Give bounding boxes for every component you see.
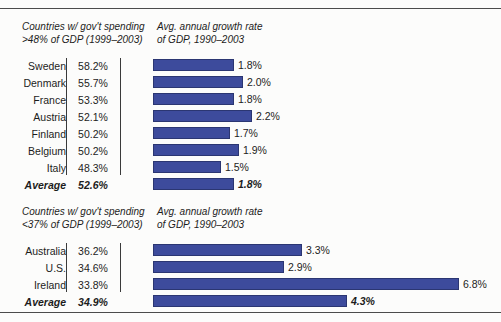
table-divider-right — [120, 243, 121, 292]
country-label: Sweden — [0, 60, 66, 72]
table-row: Denmark55.7% — [0, 74, 150, 91]
country-label: U.S. — [0, 262, 66, 274]
top-divider-rule — [0, 8, 501, 9]
spending-value: 52.1% — [66, 111, 120, 123]
bottom-divider-rule — [0, 312, 501, 313]
table-row: Belgium50.2% — [0, 142, 150, 159]
growth-value-label: 1.7% — [234, 127, 258, 139]
country-label: Average — [0, 179, 66, 191]
growth-value-label: 1.8% — [238, 178, 262, 190]
spending-value: 34.9% — [66, 296, 120, 308]
table-divider-left — [66, 58, 67, 175]
table-row: Finland50.2% — [0, 125, 150, 142]
group-2-label-table: Australia36.2%U.S.34.6%Ireland33.8%Avera… — [0, 242, 150, 310]
growth-value-label: 2.0% — [247, 76, 271, 88]
table-row: Italy48.3% — [0, 159, 150, 176]
growth-value-label: 1.8% — [238, 59, 262, 71]
country-label: Average — [0, 296, 66, 308]
growth-value-label: 1.9% — [243, 144, 267, 156]
growth-bar — [153, 278, 459, 290]
country-label: Austria — [0, 111, 66, 123]
spending-value: 36.2% — [66, 245, 120, 257]
country-label: France — [0, 94, 66, 106]
table-row: France53.3% — [0, 91, 150, 108]
growth-bar — [153, 161, 221, 173]
spending-value: 52.6% — [66, 179, 120, 191]
growth-bar — [153, 295, 347, 307]
growth-bar — [153, 127, 230, 139]
table-row: Average52.6% — [0, 176, 150, 193]
table-divider-left — [66, 243, 67, 292]
table-row: Austria52.1% — [0, 108, 150, 125]
group-2-right-header: Avg. annual growth rate of GDP, 1990–200… — [157, 205, 262, 231]
table-row: U.S.34.6% — [0, 259, 150, 276]
gdp-growth-comparison-figure: Countries w/ gov't spending >48% of GDP … — [0, 0, 501, 322]
country-label: Ireland — [0, 279, 66, 291]
table-row: Australia36.2% — [0, 242, 150, 259]
country-label: Australia — [0, 245, 66, 257]
group-1-right-header: Avg. annual growth rate of GDP, 1990–200… — [157, 20, 262, 46]
growth-bar — [153, 76, 243, 88]
growth-value-label: 1.5% — [225, 161, 249, 173]
growth-bar — [153, 144, 239, 156]
country-label: Italy — [0, 162, 66, 174]
spending-value: 58.2% — [66, 60, 120, 72]
table-row: Average34.9% — [0, 293, 150, 310]
group-2-left-header: Countries w/ gov't spending <37% of GDP … — [22, 205, 145, 231]
spending-value: 34.6% — [66, 262, 120, 274]
growth-bar — [153, 244, 302, 256]
growth-value-label: 4.3% — [351, 295, 375, 307]
country-label: Finland — [0, 128, 66, 140]
growth-bar — [153, 59, 234, 71]
table-row: Ireland33.8% — [0, 276, 150, 293]
growth-bar — [153, 261, 284, 273]
table-row: Sweden58.2% — [0, 57, 150, 74]
growth-value-label: 3.3% — [306, 244, 330, 256]
growth-value-label: 6.8% — [463, 278, 487, 290]
country-label: Belgium — [0, 145, 66, 157]
table-divider-right — [120, 58, 121, 175]
spending-value: 50.2% — [66, 145, 120, 157]
spending-value: 33.8% — [66, 279, 120, 291]
growth-value-label: 1.8% — [238, 93, 262, 105]
country-label: Denmark — [0, 77, 66, 89]
spending-value: 55.7% — [66, 77, 120, 89]
group-1-left-header: Countries w/ gov't spending >48% of GDP … — [22, 20, 145, 46]
spending-value: 50.2% — [66, 128, 120, 140]
group-1-label-table: Sweden58.2%Denmark55.7%France53.3%Austri… — [0, 57, 150, 193]
growth-bar — [153, 93, 234, 105]
growth-value-label: 2.9% — [288, 261, 312, 273]
growth-bar — [153, 110, 252, 122]
growth-value-label: 2.2% — [256, 110, 280, 122]
growth-bar — [153, 178, 234, 190]
spending-value: 53.3% — [66, 94, 120, 106]
spending-value: 48.3% — [66, 162, 120, 174]
